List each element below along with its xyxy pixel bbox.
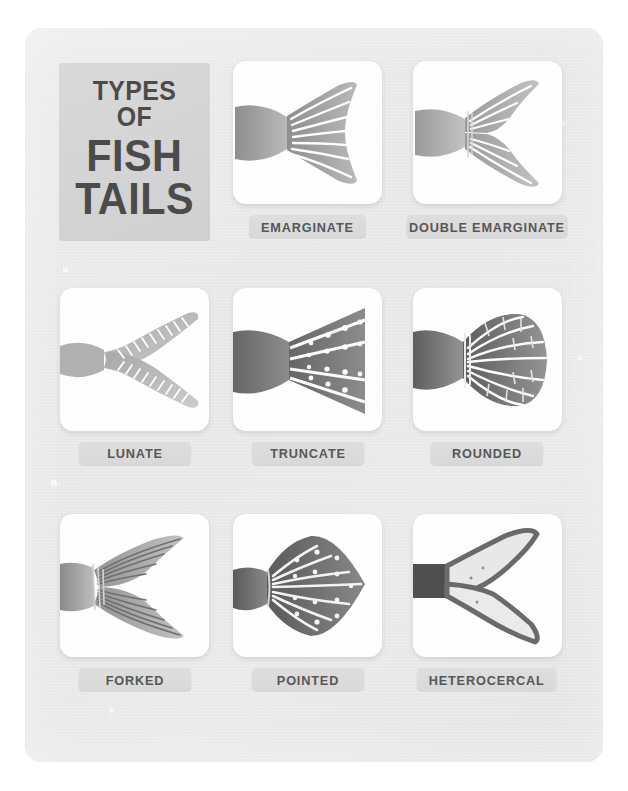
tail-label-pointed: POINTED bbox=[251, 668, 364, 692]
tail-item-emarginate[interactable]: EMARGINATE bbox=[228, 61, 387, 276]
tail-card-heterocercal bbox=[413, 514, 562, 657]
poster-title-block: TYPES OF FISH TAILS bbox=[59, 63, 210, 241]
title-line-2: FISH bbox=[86, 134, 182, 177]
tail-label-heterocercal: HETEROCERCAL bbox=[417, 668, 557, 692]
tail-label-double-emarginate: DOUBLE EMARGINATE bbox=[406, 215, 568, 239]
tail-card-double-emarginate bbox=[413, 61, 562, 204]
poster-panel: TYPES OF FISH TAILS bbox=[25, 28, 603, 762]
tail-item-lunate[interactable]: LUNATE bbox=[55, 288, 214, 503]
tail-label-rounded: ROUNDED bbox=[431, 442, 544, 466]
tail-card-lunate bbox=[60, 288, 209, 431]
tail-card-forked bbox=[60, 514, 209, 657]
rounded-tail-icon bbox=[413, 288, 562, 431]
tail-card-pointed bbox=[233, 514, 382, 657]
title-line-1: TYPES OF bbox=[72, 79, 196, 131]
tail-card-emarginate bbox=[233, 61, 382, 204]
tail-label-truncate: TRUNCATE bbox=[251, 442, 364, 466]
tail-card-truncate bbox=[233, 288, 382, 431]
tail-item-rounded[interactable]: ROUNDED bbox=[401, 288, 573, 503]
lunate-tail-icon bbox=[60, 288, 209, 431]
tail-label-emarginate: EMARGINATE bbox=[249, 215, 366, 239]
title-line-3: TAILS bbox=[75, 177, 194, 220]
tail-item-double-emarginate[interactable]: DOUBLE EMARGINATE bbox=[401, 61, 573, 276]
tail-card-rounded bbox=[413, 288, 562, 431]
tail-types-grid: TYPES OF FISH TAILS bbox=[25, 28, 603, 762]
pointed-tail-icon bbox=[233, 514, 382, 657]
tail-label-lunate: LUNATE bbox=[78, 442, 191, 466]
emarginate-tail-icon bbox=[233, 61, 382, 204]
heterocercal-tail-icon bbox=[413, 514, 562, 657]
forked-tail-icon bbox=[60, 514, 209, 657]
title-cell: TYPES OF FISH TAILS bbox=[55, 61, 214, 276]
tail-item-forked[interactable]: FORKED bbox=[55, 514, 214, 729]
tail-item-truncate[interactable]: TRUNCATE bbox=[228, 288, 387, 503]
tail-item-heterocercal[interactable]: HETEROCERCAL bbox=[401, 514, 573, 729]
tail-item-pointed[interactable]: POINTED bbox=[228, 514, 387, 729]
double-emarginate-tail-icon bbox=[413, 61, 562, 204]
truncate-tail-icon bbox=[233, 288, 382, 431]
tail-label-forked: FORKED bbox=[78, 668, 191, 692]
